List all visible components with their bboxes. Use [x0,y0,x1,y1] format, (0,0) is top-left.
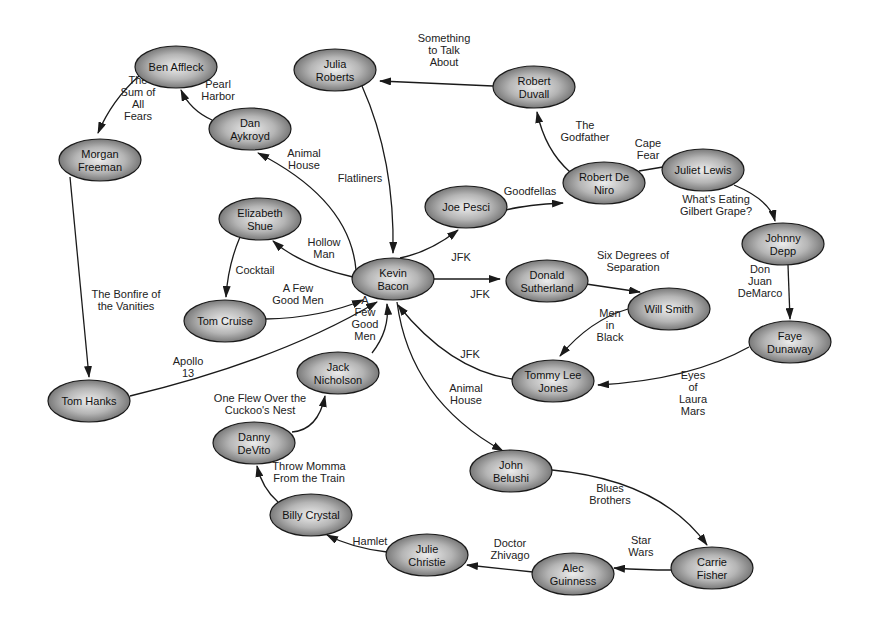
node-elizabeth-shue[interactable]: ElizabethShue [219,198,301,240]
node-alec-guinness[interactable]: AlecGuinness [532,553,614,595]
node-juliet-lewis[interactable]: Juliet Lewis [662,149,744,191]
edge-label-line: About [430,56,459,68]
edge-label-line: All [132,98,144,110]
node-kevin-bacon[interactable]: KevinBacon [352,258,434,300]
edge-label-line: in [606,319,615,331]
edge-label-line: Hamlet [353,535,388,547]
edge-robert-duvall-to-julia-roberts [380,81,493,86]
edge-label-line: DeMarco [738,287,783,299]
edge-label-line: Flatliners [338,172,383,184]
node-will-smith[interactable]: Will Smith [628,288,710,330]
edge-label: Hamlet [353,535,388,547]
node-morgan-freeman[interactable]: MorganFreeman [59,139,141,181]
edge-label: StarWars [628,534,654,558]
node-robert-duvall[interactable]: RobertDuvall [493,66,575,108]
edge-label-line: Few [355,306,376,318]
edge-label-line: Throw Momma [272,460,346,472]
node-danny-devito[interactable]: DannyDeVito [213,422,295,464]
edge-label: Apollo13 [173,355,204,379]
edge-label: JFK [460,348,480,360]
node-label: Tom Hanks [61,395,117,407]
edge-donald-sutherland-to-will-smith [586,284,640,292]
node-julie-christie[interactable]: JulieChristie [386,534,468,576]
edge-label: One Flew Over theCuckoo's Nest [214,392,306,416]
kevin-bacon-graph: TheSum ofAllFearsPearlHarborAnimalHouseF… [0,0,873,623]
edge-label-line: Star [631,534,652,546]
node-julia-roberts[interactable]: JuliaRoberts [294,49,376,91]
node-john-belushi[interactable]: JohnBelushi [470,450,552,492]
node-label-line: Dan [240,117,260,129]
edge-label-line: From the Train [273,472,345,484]
node-label: RobertDuvall [517,75,550,100]
edge-label-line: Juan [748,275,772,287]
node-label: Joe Pesci [442,201,490,213]
node-label-line: Jones [538,382,568,394]
node-label-line: Belushi [493,472,529,484]
node-label: Billy Crystal [282,509,339,521]
node-robert-de-niro[interactable]: Robert DeNiro [563,162,645,204]
edge-label: HollowMan [307,236,340,260]
edge-label-line: One Flew Over the [214,392,306,404]
node-joe-pesci[interactable]: Joe Pesci [425,186,507,228]
edge-label: The Bonfire ofthe Vanities [91,288,161,312]
edge-john-belushi-to-carrie-fisher [552,470,707,545]
edge-label-line: Zhivago [490,549,529,561]
node-label: DannyDeVito [238,431,271,456]
node-label-line: Joe Pesci [442,201,490,213]
node-label-line: Roberts [316,71,355,83]
node-label: MorganFreeman [78,148,122,173]
node-label-line: Juliet Lewis [675,164,732,176]
edge-label-line: Black [597,331,624,343]
edge-label-line: House [450,394,482,406]
edge-label-line: Blues [596,482,624,494]
node-label-line: Johnny [765,232,801,244]
node-billy-crystal[interactable]: Billy Crystal [270,494,352,536]
node-tommy-lee-jones[interactable]: Tommy LeeJones [512,360,594,402]
edge-label-line: Animal [449,382,483,394]
node-donald-sutherland[interactable]: DonaldSutherland [506,260,588,302]
node-label-line: Will Smith [645,303,694,315]
node-label-line: Ben Affleck [149,61,204,73]
node-label-line: Duvall [519,88,550,100]
node-label-line: Guinness [550,575,597,587]
edge-label-line: Doctor [494,537,527,549]
node-label-line: Bacon [377,280,408,292]
node-label-line: Tom Cruise [197,315,253,327]
edge-label: Goodfellas [504,185,557,197]
node-label-line: Carrie [697,556,727,568]
node-label-line: Niro [594,184,614,196]
node-label-line: DeVito [238,444,271,456]
node-label: JohnnyDepp [765,232,801,257]
node-label-line: Christie [408,556,445,568]
node-carrie-fisher[interactable]: CarrieFisher [671,547,753,589]
edge-label-line: JFK [460,348,480,360]
edge-label-line: Cape [635,137,661,149]
edge-label: CapeFear [635,137,661,161]
node-label-line: Billy Crystal [282,509,339,521]
node-label-line: Sutherland [520,282,573,294]
node-ben-affleck[interactable]: Ben Affleck [135,46,217,88]
edge-joe-pesci-to-robert-de-niro [506,203,563,210]
node-label-line: Jack [327,361,350,373]
node-johnny-depp[interactable]: JohnnyDepp [742,223,824,265]
edge-label-line: Eyes [681,369,706,381]
node-dan-aykroyd[interactable]: DanAykroyd [209,108,291,150]
node-label-line: Dunaway [767,343,813,355]
node-label-line: Depp [770,245,796,257]
edge-label-line: 13 [182,367,194,379]
node-tom-hanks[interactable]: Tom Hanks [48,380,130,422]
edge-morgan-freeman-to-tom-hanks [70,177,89,377]
node-faye-dunaway[interactable]: FayeDunaway [749,321,831,363]
node-label-line: Julia [324,58,348,70]
edge-label: JFK [470,288,490,300]
edge-label-line: to Talk [428,44,460,56]
node-label-line: Aykroyd [230,130,270,142]
node-tom-cruise[interactable]: Tom Cruise [184,300,266,342]
node-jack-nicholson[interactable]: JackNicholson [297,352,379,394]
edge-label: AFewGoodMen [352,294,379,342]
edge-label-line: Cuckoo's Nest [225,404,296,416]
edge-faye-dunaway-to-tommy-lee-jones [598,347,749,385]
edge-label-line: Men [599,307,620,319]
node-label-line: Faye [778,330,802,342]
node-label-line: Donald [530,269,565,281]
